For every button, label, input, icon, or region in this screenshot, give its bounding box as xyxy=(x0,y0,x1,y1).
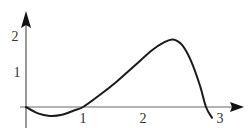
function-plot: 2 1 1 2 3 xyxy=(0,0,250,133)
y-tick-label-2: 2 xyxy=(12,29,19,44)
x-tick-label-1: 1 xyxy=(80,111,87,126)
x-tick-label-2: 2 xyxy=(140,111,147,126)
x-tick-label-3: 3 xyxy=(217,111,224,126)
y-tick-label-1: 1 xyxy=(14,65,21,80)
x-axis-arrow-icon xyxy=(230,102,244,112)
function-curve xyxy=(26,39,212,117)
